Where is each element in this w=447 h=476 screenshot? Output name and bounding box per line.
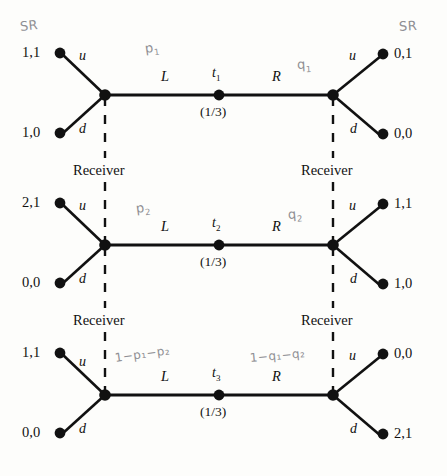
payoff-right-up-row3: 0,0: [394, 346, 412, 361]
nature-probability-row3: (1/3): [200, 405, 226, 419]
type-node-row3: [214, 390, 225, 401]
edge-right-up-row1: [333, 56, 381, 95]
branch-label-R-row3: R: [272, 369, 281, 384]
payoff-right-down-row1: 0,0: [394, 126, 412, 141]
terminal-node-left-down-row1: [55, 128, 66, 139]
action-label-left-down-row2: d: [79, 272, 86, 286]
terminal-node-left-up-row1: [55, 48, 66, 59]
terminal-node-left-down-row3: [55, 428, 66, 439]
type-node-index-row2: 2: [216, 223, 221, 233]
receiver-label-right-bottom: Receiver: [301, 313, 353, 328]
receiver-label-left-bottom: Receiver: [73, 313, 125, 328]
terminal-node-left-up-row2: [55, 198, 66, 209]
handwritten-sr-left-row1: SR: [19, 18, 38, 33]
type-node-index-row1: 1: [216, 73, 221, 83]
handwritten-q1-row1: q1: [297, 57, 312, 74]
type-node-row1: [214, 90, 225, 101]
handwritten-p1-index: 1: [153, 47, 160, 58]
terminal-node-right-up-row2: [378, 199, 389, 210]
signaling-game-diagram: 1,1 1,0 0,1 0,0 u d u d L R t1 (1/3) SR …: [0, 0, 447, 476]
action-label-left-up-row1: u: [79, 49, 86, 63]
payoff-right-down-row3: 2,1: [394, 426, 412, 441]
edge-right-up-row2: [333, 206, 381, 245]
nature-probability-row1: (1/3): [200, 105, 226, 119]
action-label-left-up-row3: u: [79, 355, 86, 369]
branch-label-R-row2: R: [272, 219, 281, 234]
terminal-node-left-down-row2: [55, 278, 66, 289]
action-label-right-down-row1: d: [350, 122, 357, 136]
terminal-node-right-down-row2: [378, 279, 389, 290]
action-label-left-up-row2: u: [79, 199, 86, 213]
payoff-right-up-row1: 0,1: [394, 46, 412, 61]
receiver-label-right-top: Receiver: [301, 163, 353, 178]
row-1-nodes: [55, 48, 389, 140]
row-2-nodes: [55, 198, 389, 290]
receiver-label-left-top: Receiver: [73, 163, 125, 178]
action-label-right-up-row3: u: [349, 349, 356, 363]
handwritten-q1-letter: q: [297, 57, 306, 72]
nature-probability-row2: (1/3): [200, 255, 226, 269]
handwritten-q1-index: 1: [306, 64, 312, 74]
type-node-label-row1: t1: [212, 66, 220, 83]
action-label-left-down-row3: d: [79, 422, 86, 436]
terminal-node-right-up-row3: [378, 349, 389, 360]
type-node-label-row2: t2: [212, 216, 220, 233]
action-label-right-up-row2: u: [349, 199, 356, 213]
action-label-right-down-row3: d: [350, 422, 357, 436]
action-label-right-down-row2: d: [350, 272, 357, 286]
edge-right-down-row2: [333, 245, 381, 286]
type-node-index-row3: 3: [216, 373, 221, 383]
terminal-node-right-down-row1: [378, 129, 389, 140]
payoff-left-up-row1: 1,1: [22, 45, 40, 60]
handwritten-q2-row2: q2: [287, 207, 303, 224]
payoff-left-down-row1: 1,0: [22, 125, 40, 140]
branch-label-L-row1: L: [161, 69, 169, 84]
handwritten-sr-right-row1: SR: [399, 19, 418, 33]
payoff-left-up-row2: 2,1: [22, 195, 40, 210]
payoff-left-down-row3: 0,0: [22, 425, 40, 440]
handwritten-p2-row2: p2: [135, 200, 152, 218]
payoff-right-up-row2: 1,1: [394, 196, 412, 211]
handwritten-p2-index: 2: [144, 207, 151, 218]
handwritten-p1-row1: p1: [144, 40, 161, 58]
payoff-left-down-row2: 0,0: [22, 275, 40, 290]
edge-right-down-row1: [333, 95, 381, 136]
branch-label-L-row3: L: [161, 369, 169, 384]
type-node-row2: [214, 240, 225, 251]
terminal-node-left-up-row3: [55, 348, 66, 359]
payoff-left-up-row3: 1,1: [22, 345, 40, 360]
terminal-node-right-down-row3: [378, 429, 389, 440]
edge-right-up-row3: [333, 356, 381, 395]
type-node-label-row3: t3: [212, 366, 220, 383]
row-3-nodes: [55, 348, 389, 440]
branch-label-L-row2: L: [161, 219, 169, 234]
edge-right-down-row3: [333, 395, 381, 436]
action-label-right-up-row1: u: [349, 49, 356, 63]
action-label-left-down-row1: d: [79, 122, 86, 136]
payoff-right-down-row2: 1,0: [394, 276, 412, 291]
branch-label-R-row1: R: [272, 69, 281, 84]
terminal-node-right-up-row1: [378, 49, 389, 60]
handwritten-q2-index: 2: [296, 213, 303, 223]
